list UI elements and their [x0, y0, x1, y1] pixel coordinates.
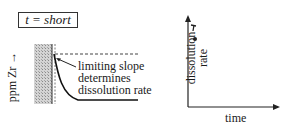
annotation-text: limiting slope determines dissolution ra…: [78, 60, 152, 96]
x-axis-label-time: time: [225, 111, 246, 126]
y-axis-label-line-2: rate: [197, 21, 209, 95]
time-condition-label: t = short: [18, 12, 78, 28]
y-axis-label-ppm-zr: ppm Zr →: [5, 47, 19, 107]
annotation-line-3: dissolution rate: [78, 84, 152, 96]
solid-region: [34, 44, 52, 104]
x-axis-arrow-icon: [273, 104, 280, 110]
y-axis-label-dissolution-rate: dissolution rate: [185, 21, 213, 95]
annotation-arrow-line: [58, 59, 76, 67]
